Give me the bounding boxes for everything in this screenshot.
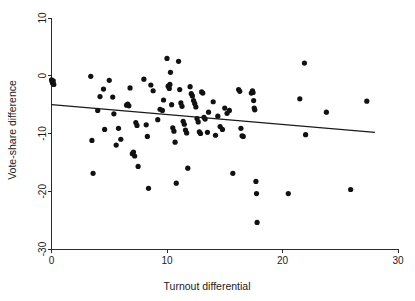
data-point: [51, 82, 56, 87]
data-point: [193, 104, 198, 109]
data-point: [127, 85, 132, 90]
data-point: [211, 99, 216, 104]
data-point: [190, 93, 195, 98]
y-tick-label: 10: [37, 12, 48, 24]
data-point: [302, 60, 307, 65]
data-point: [179, 104, 184, 109]
data-point: [251, 98, 256, 103]
data-point: [167, 82, 172, 87]
data-point: [145, 134, 150, 139]
data-point: [111, 111, 116, 116]
data-point: [237, 89, 242, 94]
y-tick-label: 0: [37, 73, 48, 79]
data-point: [171, 129, 176, 134]
data-point: [215, 114, 220, 119]
data-point: [126, 103, 131, 108]
scatter-plot-figure: 100-10-20-30 0102030 Turnout differentia…: [0, 0, 415, 301]
data-point: [227, 108, 232, 113]
data-point: [114, 142, 119, 147]
regression-line: [52, 105, 375, 133]
y-tick-group: 100-10-20-30: [37, 12, 52, 256]
x-tick-label: 10: [161, 255, 173, 266]
data-point: [176, 59, 181, 64]
data-point: [205, 130, 210, 135]
data-point: [177, 87, 182, 92]
data-point: [110, 95, 115, 100]
data-point: [141, 77, 146, 82]
data-point: [252, 107, 257, 112]
data-point: [151, 88, 156, 93]
data-point: [88, 74, 93, 79]
x-tick-label: 20: [277, 255, 289, 266]
data-point: [116, 126, 121, 131]
data-point: [198, 131, 203, 136]
x-axis-group: 0102030: [49, 249, 404, 266]
y-tick-label: -10: [37, 126, 48, 141]
x-tick-label: 0: [49, 255, 55, 266]
data-point: [148, 82, 153, 87]
data-point: [118, 137, 123, 142]
data-point: [102, 127, 107, 132]
y-axis-group: 100-10-20-30: [37, 12, 52, 256]
data-points-group: [49, 56, 370, 225]
data-point: [136, 164, 141, 169]
data-point: [254, 191, 259, 196]
data-point: [161, 97, 166, 102]
data-point: [238, 126, 243, 131]
data-point: [174, 181, 179, 186]
data-point: [182, 122, 187, 127]
x-tick-label: 30: [392, 255, 404, 266]
data-point: [220, 127, 225, 132]
data-point: [184, 130, 189, 135]
data-point: [286, 191, 291, 196]
data-point: [303, 132, 308, 137]
data-point: [200, 90, 205, 95]
x-tick-group: 0102030: [49, 249, 404, 266]
y-tick-label: -20: [37, 184, 48, 199]
data-point: [364, 99, 369, 104]
data-point: [348, 187, 353, 192]
data-point: [144, 122, 149, 127]
data-point: [101, 86, 106, 91]
data-point: [160, 108, 165, 113]
data-point: [168, 70, 173, 75]
data-point: [253, 179, 258, 184]
data-point: [250, 90, 255, 95]
y-axis-title: Vote-share difference: [6, 80, 18, 180]
data-point: [107, 78, 112, 83]
plot-canvas: 100-10-20-30 0102030 Turnout differentia…: [0, 0, 415, 301]
data-point: [185, 166, 190, 171]
data-point: [241, 134, 246, 139]
data-point: [230, 171, 235, 176]
data-point: [97, 94, 102, 99]
data-point: [90, 171, 95, 176]
data-point: [164, 56, 169, 61]
y-tick-label: -30: [37, 241, 48, 256]
data-point: [213, 133, 218, 138]
data-point: [172, 140, 177, 145]
data-point: [134, 123, 139, 128]
data-point: [132, 153, 137, 158]
data-point: [254, 220, 259, 225]
data-point: [169, 102, 174, 107]
data-point: [206, 110, 211, 115]
data-point: [297, 96, 302, 101]
data-point: [196, 119, 201, 124]
x-axis-title: Turnout differential: [164, 280, 251, 292]
data-point: [324, 110, 329, 115]
data-point: [188, 84, 193, 89]
data-point: [146, 186, 151, 191]
data-point: [89, 138, 94, 143]
data-point: [155, 117, 160, 122]
data-point: [222, 105, 227, 110]
